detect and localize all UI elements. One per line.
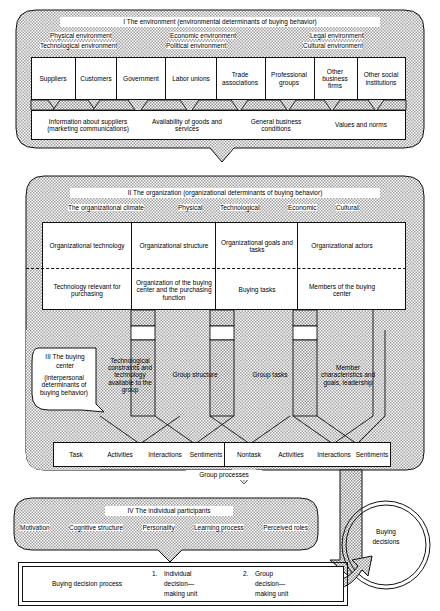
decision-unit-number: 1. <box>152 570 157 577</box>
environment-label: Economic environment <box>170 32 236 39</box>
section-i-actor: Trade associations <box>216 57 264 100</box>
section-i-actor: Other business firms <box>314 57 356 100</box>
decision-unit-line: making unit <box>164 590 197 597</box>
environment-label: Legal environment <box>310 32 363 39</box>
section-i-flow: Information about suppliers (marketing c… <box>34 112 142 138</box>
section-i-flow: Values and norms <box>320 112 402 138</box>
section-iv-attributes: Motivation Cognitive structure Personali… <box>20 522 308 533</box>
section-i-actor: Suppliers <box>31 57 75 100</box>
environment-label: Physical environment <box>50 32 112 39</box>
section-ii-col-bottom: Buying tasks <box>219 272 295 308</box>
environment-label: Cultural environment <box>303 42 363 49</box>
buying-decisions-label-line1: Buying <box>360 527 412 537</box>
process-item: Activities <box>270 442 312 467</box>
section-ii-col-top: Organizational structure <box>133 226 215 266</box>
individual-attribute: Perceived roles <box>263 524 308 531</box>
individual-attribute: Motivation <box>20 524 50 531</box>
section-iii-heading-line2: center <box>34 361 96 370</box>
decision-unit-number: 2. <box>243 570 248 577</box>
section-ii-col-bottom: Technology relevant for purchasing <box>48 272 126 308</box>
climate-item: Technological <box>220 204 259 211</box>
individual-attribute: Personality <box>142 524 174 531</box>
process-item: Interactions <box>312 442 356 467</box>
section-i-actor: Labor unions <box>167 57 215 100</box>
process-item: Activities <box>98 442 142 467</box>
climate-item: Physical <box>178 204 202 211</box>
section-iii-heading-line1: III The buying <box>34 352 96 361</box>
environment-label: Political environment <box>166 42 226 49</box>
section-iii-column: Group tasks <box>237 360 303 390</box>
decision-unit-line: Group <box>255 570 273 577</box>
climate-item: Economic <box>288 204 317 211</box>
section-ii-heading: II The organization (organizational dete… <box>70 188 380 198</box>
section-i-flow: Availability of goods and services <box>148 112 226 138</box>
section-i-actor: Other social institutions <box>357 57 405 100</box>
decision-unit-1: 1. Individual decision— making unit <box>152 570 230 600</box>
section-ii-dashed-separator <box>26 268 406 269</box>
section-iii-column: Member characteristics and goals, leader… <box>316 348 380 402</box>
section-i-actor: Government <box>117 57 165 100</box>
individual-attribute: Learning process <box>194 524 244 531</box>
section-ii-col-bottom: Members of the buying center <box>300 272 384 308</box>
decision-unit-line: decision— <box>164 580 194 587</box>
organizational-climate-label: The organizational climate <box>68 204 144 211</box>
section-i-flow: General business conditions <box>240 112 312 138</box>
section-ii-col-top: Organizational actors <box>299 226 385 266</box>
process-item: Sentiments <box>352 442 392 467</box>
climate-item: Cultural <box>336 204 358 211</box>
section-iii-subheading: (interpersonal determinants of buying be… <box>33 374 95 396</box>
process-item: Sentiments <box>186 442 226 467</box>
buying-behavior-diagram: I The environment (environmental determi… <box>0 0 440 611</box>
decision-unit-line: making unit <box>255 590 288 597</box>
process-item: Interactions <box>143 442 187 467</box>
section-iv-heading: IV The individual participants <box>105 506 233 516</box>
section-ii-col-top: Organizational goals and tasks <box>217 226 297 266</box>
buying-decisions-label-line2: decisions <box>360 537 412 547</box>
section-i-actor: Professional groups <box>265 57 313 100</box>
individual-attribute: Cognitive structure <box>69 524 123 531</box>
section-i-actor: Customers <box>76 57 116 100</box>
decision-unit-2: 2. Group decision— making unit <box>243 570 321 600</box>
section-i-connectors <box>31 100 406 110</box>
section-ii-col-top: Organizational technology <box>44 226 130 266</box>
section-i-heading: I The environment (environmental determi… <box>60 17 380 27</box>
section-iii-column: Group structure <box>160 360 230 390</box>
decision-unit-line: Individual <box>164 570 191 577</box>
process-nontask-label: Nontask <box>229 442 269 467</box>
decision-unit-line: decision— <box>255 580 285 587</box>
group-processes-caption: Group processes <box>186 470 262 480</box>
section-ii-col-bottom: Organization of the buying center and th… <box>134 270 214 310</box>
process-task-label: Task <box>58 442 94 467</box>
environment-label: Technological environment <box>40 42 117 49</box>
buying-decision-process-label: Buying decision process <box>28 566 146 602</box>
section-iii-column: Technological constraints and technology… <box>101 344 159 406</box>
